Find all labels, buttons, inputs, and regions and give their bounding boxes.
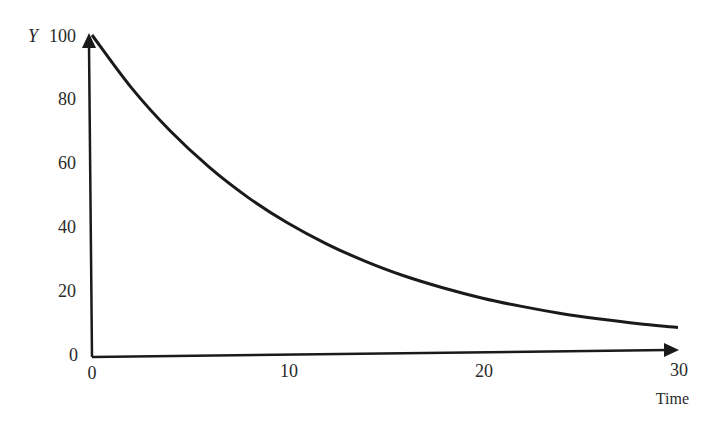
y-tick-40: 40 (58, 217, 76, 237)
y-tick-20: 20 (58, 281, 76, 301)
decay-chart: Y 100 80 60 40 20 0 0 10 20 30 Time (0, 0, 718, 428)
x-axis-label: Time (656, 390, 689, 407)
decay-curve (92, 35, 678, 328)
y-tick-60: 60 (58, 153, 76, 173)
y-axis-label: Y (28, 26, 40, 46)
y-axis (89, 45, 92, 357)
y-tick-80: 80 (58, 89, 76, 109)
x-axis (92, 350, 668, 357)
x-tick-0: 0 (88, 363, 97, 383)
y-tick-100: 100 (49, 26, 76, 46)
x-tick-20: 20 (475, 361, 493, 381)
x-axis-arrow-icon (664, 343, 679, 357)
x-tick-30: 30 (670, 360, 688, 380)
x-tick-10: 10 (280, 361, 298, 381)
y-tick-0: 0 (69, 345, 78, 365)
